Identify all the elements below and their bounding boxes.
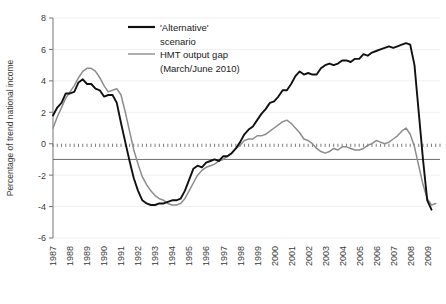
x-tick-label: 2008 — [406, 246, 416, 266]
x-tick-label: 1996 — [201, 246, 211, 266]
x-tick-label: 1995 — [184, 246, 194, 266]
y-axis-title: Percentage of trend national income — [5, 59, 15, 196]
legend-label-alternative-line1: 'Alternative' — [160, 22, 209, 33]
x-tick-label: 2004 — [338, 246, 348, 266]
x-tick-label: 1999 — [253, 246, 263, 266]
y-tick-label: -2 — [38, 171, 46, 181]
x-tick-label: 1990 — [99, 246, 109, 266]
x-tick-label: 2001 — [287, 246, 297, 266]
x-tick-label: 1991 — [116, 246, 126, 266]
y-tick-label: -6 — [38, 233, 46, 243]
y-tick-label: 8 — [41, 13, 46, 23]
output-gap-line-chart: 86420-2-4-6 1987198819891990199119921993… — [0, 0, 446, 304]
y-tick-label: -4 — [38, 202, 46, 212]
x-tick-label: 2007 — [389, 246, 399, 266]
x-tick-label: 2005 — [355, 246, 365, 266]
chart-container: 86420-2-4-6 1987198819891990199119921993… — [0, 0, 446, 304]
y-tick-label: 0 — [41, 139, 46, 149]
x-tick-label: 2000 — [270, 246, 280, 266]
x-tick-label: 1988 — [65, 246, 75, 266]
x-tick-label: 2006 — [372, 246, 382, 266]
x-tick-label-group: 1987198819891990199119921993199419951996… — [48, 246, 432, 266]
x-tick-label: 1987 — [48, 246, 58, 266]
x-tick-label: 1994 — [167, 246, 177, 266]
x-tick-label: 2002 — [304, 246, 314, 266]
legend-label-hmt-line1: HMT output gap — [160, 49, 228, 60]
legend-label-hmt-line2: (March/June 2010) — [160, 63, 240, 74]
y-tick-label: 6 — [41, 45, 46, 55]
legend-label-alternative-line2: scenario — [160, 36, 196, 47]
x-tick-label: 1992 — [133, 246, 143, 266]
x-tick-label: 2003 — [321, 246, 331, 266]
x-tick-label: 1989 — [82, 246, 92, 266]
x-tick-label: 1997 — [219, 246, 229, 266]
x-tick-label: 1998 — [236, 246, 246, 266]
x-tick-label: 1993 — [150, 246, 160, 266]
x-tick-label: 2009 — [423, 246, 433, 266]
y-tick-label: 2 — [41, 108, 46, 118]
y-tick-label: 4 — [41, 76, 46, 86]
